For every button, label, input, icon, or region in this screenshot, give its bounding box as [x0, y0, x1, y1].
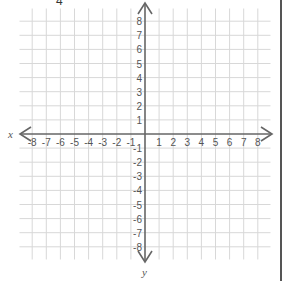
y-tick-label: -5 — [133, 200, 142, 211]
y-tick-label: 2 — [136, 101, 142, 112]
x-tick-label: -5 — [70, 137, 79, 148]
x-axis-label: x — [7, 128, 13, 140]
y-tick-label: -6 — [133, 214, 142, 225]
x-tick-label: -7 — [42, 137, 51, 148]
right-border — [280, 0, 282, 281]
y-tick-label: -1 — [133, 143, 142, 154]
x-tick-label: -6 — [56, 137, 65, 148]
x-tick-label: 3 — [185, 137, 191, 148]
x-tick-label: 7 — [241, 137, 247, 148]
tick-labels: xy-8-7-6-5-4-3-2-11234567887654321-1-2-3… — [7, 16, 261, 278]
x-tick-label: -2 — [112, 137, 121, 148]
y-tick-label: -7 — [133, 228, 142, 239]
y-tick-label: 4 — [136, 73, 142, 84]
x-tick-label: 2 — [170, 137, 176, 148]
y-tick-label: -8 — [133, 242, 142, 253]
y-tick-label: 1 — [136, 115, 142, 126]
y-tick-label: 8 — [136, 16, 142, 27]
x-tick-label: -4 — [84, 137, 93, 148]
coordinate-grid: xy-8-7-6-5-4-3-2-11234567887654321-1-2-3… — [0, 0, 283, 281]
x-tick-label: -8 — [28, 137, 37, 148]
x-tick-label: 8 — [255, 137, 261, 148]
y-tick-label: 7 — [136, 30, 142, 41]
x-tick-label: 4 — [199, 137, 205, 148]
y-tick-label: -3 — [133, 171, 142, 182]
y-tick-label: 6 — [136, 44, 142, 55]
y-axis-label: y — [141, 266, 147, 278]
coordinate-plane: 4 xy-8-7-6-5-4-3-2-11234567887654321-1-2… — [0, 0, 283, 281]
y-tick-label: -4 — [133, 185, 142, 196]
x-tick-label: -3 — [98, 137, 107, 148]
x-tick-label: 5 — [213, 137, 219, 148]
x-tick-label: 1 — [156, 137, 162, 148]
x-tick-label: 6 — [227, 137, 233, 148]
axes — [20, 3, 272, 262]
y-tick-label: -2 — [133, 157, 142, 168]
y-tick-label: 5 — [136, 59, 142, 70]
y-tick-label: 3 — [136, 87, 142, 98]
